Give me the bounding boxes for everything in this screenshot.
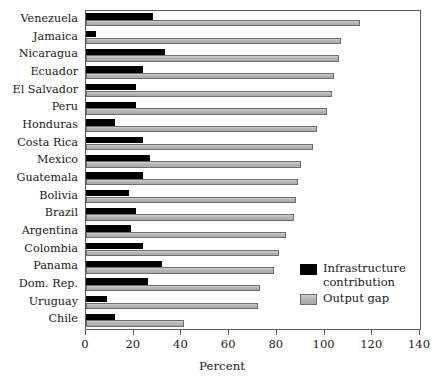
bar-output-gap bbox=[86, 73, 334, 79]
bar-group bbox=[86, 135, 420, 153]
y-axis-label: Honduras bbox=[0, 119, 78, 131]
chart-legend: InfrastructurecontributionOutput gap bbox=[300, 262, 420, 309]
bar-infrastructure-contribution bbox=[86, 155, 150, 161]
bar-group bbox=[86, 64, 420, 82]
bar-infrastructure-contribution bbox=[86, 84, 136, 90]
bar-infrastructure-contribution bbox=[86, 208, 136, 214]
x-axis-tick-labels: 020406080100120140 bbox=[0, 337, 444, 353]
y-axis-label: Colombia bbox=[0, 243, 78, 255]
x-axis-tick-label: 60 bbox=[221, 337, 236, 351]
bar-group bbox=[86, 152, 420, 170]
bar-output-gap bbox=[86, 126, 317, 132]
bar-group bbox=[86, 117, 420, 135]
bar-infrastructure-contribution bbox=[86, 31, 96, 37]
figure-top-margin bbox=[0, 0, 444, 4]
x-axis-tick bbox=[85, 330, 86, 335]
y-axis-label: Uruguay bbox=[0, 296, 78, 308]
bar-output-gap bbox=[86, 285, 260, 291]
y-axis-label: Mexico bbox=[0, 154, 78, 166]
x-axis-tick bbox=[228, 330, 229, 335]
y-axis-category-labels: VenezuelaJamaicaNicaraguaEcuadorEl Salva… bbox=[0, 10, 78, 330]
y-axis-label: Chile bbox=[0, 313, 78, 325]
bar-infrastructure-contribution bbox=[86, 314, 115, 320]
x-axis-tick-label: 100 bbox=[313, 337, 335, 351]
y-axis-label: Jamaica bbox=[0, 31, 78, 43]
bar-output-gap bbox=[86, 38, 341, 44]
bar-group bbox=[86, 188, 420, 206]
bar-infrastructure-contribution bbox=[86, 49, 165, 55]
bar-group bbox=[86, 82, 420, 100]
y-axis-label: Ecuador bbox=[0, 66, 78, 78]
bar-infrastructure-contribution bbox=[86, 13, 153, 19]
y-axis-label: Nicaragua bbox=[0, 48, 78, 60]
bar-group bbox=[86, 29, 420, 47]
bar-infrastructure-contribution bbox=[86, 66, 143, 72]
bar-output-gap bbox=[86, 214, 294, 220]
x-axis-tick-label: 120 bbox=[360, 337, 382, 351]
x-axis-tick-label: 20 bbox=[125, 337, 140, 351]
legend-swatch-black bbox=[300, 264, 317, 275]
bar-output-gap bbox=[86, 91, 332, 97]
bar-infrastructure-contribution bbox=[86, 137, 143, 143]
legend-label-line1: Output gap bbox=[323, 291, 389, 305]
bar-group bbox=[86, 99, 420, 117]
bar-infrastructure-contribution bbox=[86, 243, 143, 249]
x-axis-tick bbox=[180, 330, 181, 335]
y-axis-label: Venezuela bbox=[0, 13, 78, 25]
x-axis-tick bbox=[133, 330, 134, 335]
bar-output-gap bbox=[86, 161, 301, 167]
bar-group bbox=[86, 241, 420, 259]
y-axis-label: Brazil bbox=[0, 207, 78, 219]
chart-figure: VenezuelaJamaicaNicaraguaEcuadorEl Salva… bbox=[0, 0, 444, 384]
bar-infrastructure-contribution bbox=[86, 225, 131, 231]
bar-infrastructure-contribution bbox=[86, 119, 115, 125]
bar-output-gap bbox=[86, 55, 339, 61]
bar-output-gap bbox=[86, 179, 298, 185]
bar-group bbox=[86, 311, 420, 329]
bar-infrastructure-contribution bbox=[86, 296, 107, 302]
y-axis-label: Guatemala bbox=[0, 172, 78, 184]
bar-output-gap bbox=[86, 20, 360, 26]
legend-item: Infrastructurecontribution bbox=[300, 262, 420, 289]
legend-label: Infrastructurecontribution bbox=[323, 262, 406, 289]
bar-output-gap bbox=[86, 108, 327, 114]
y-axis-label: Bolivia bbox=[0, 190, 78, 202]
bar-output-gap bbox=[86, 197, 296, 203]
bar-infrastructure-contribution bbox=[86, 102, 136, 108]
x-axis-tick-label: 140 bbox=[408, 337, 430, 351]
legend-label-line2: contribution bbox=[323, 275, 395, 289]
x-axis-tick bbox=[371, 330, 372, 335]
bar-output-gap bbox=[86, 320, 184, 326]
legend-item: Output gap bbox=[300, 292, 420, 306]
x-axis-tick-label: 40 bbox=[173, 337, 188, 351]
bar-output-gap bbox=[86, 232, 286, 238]
x-axis-tick bbox=[419, 330, 420, 335]
x-axis-ticks bbox=[85, 330, 421, 336]
x-axis-tick-label: 0 bbox=[81, 337, 88, 351]
legend-label: Output gap bbox=[323, 292, 389, 306]
bar-infrastructure-contribution bbox=[86, 278, 148, 284]
legend-swatch-gray bbox=[300, 294, 317, 305]
x-axis-tick-label: 80 bbox=[269, 337, 284, 351]
x-axis-tick bbox=[324, 330, 325, 335]
y-axis-label: Dom. Rep. bbox=[0, 278, 78, 290]
bar-group bbox=[86, 205, 420, 223]
bar-infrastructure-contribution bbox=[86, 172, 143, 178]
bar-group bbox=[86, 11, 420, 29]
bar-group bbox=[86, 223, 420, 241]
bar-group bbox=[86, 170, 420, 188]
bar-infrastructure-contribution bbox=[86, 261, 162, 267]
y-axis-label: Costa Rica bbox=[0, 137, 78, 149]
y-axis-label: El Salvador bbox=[0, 84, 78, 96]
bar-output-gap bbox=[86, 303, 258, 309]
legend-label-line1: Infrastructure bbox=[323, 261, 406, 275]
bar-output-gap bbox=[86, 267, 274, 273]
bar-group bbox=[86, 46, 420, 64]
bar-output-gap bbox=[86, 144, 313, 150]
bar-output-gap bbox=[86, 250, 279, 256]
x-axis-tick bbox=[276, 330, 277, 335]
bar-infrastructure-contribution bbox=[86, 190, 129, 196]
x-axis-title: Percent bbox=[0, 359, 444, 373]
y-axis-label: Peru bbox=[0, 101, 78, 113]
y-axis-label: Argentina bbox=[0, 225, 78, 237]
